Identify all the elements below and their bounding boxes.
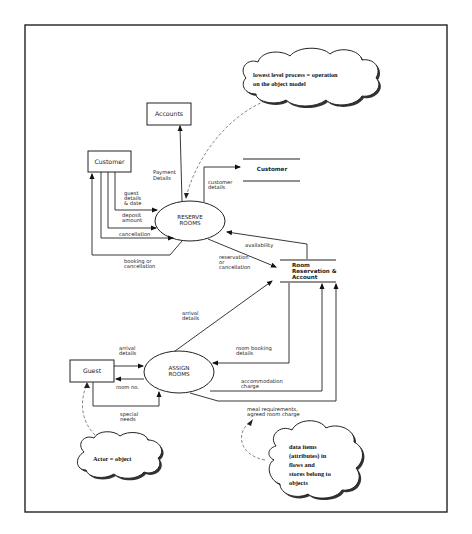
dfd-canvas: lowest level process = operation on the … [0, 0, 472, 534]
data-note-pointer [241, 422, 265, 460]
data-note-line1: data items [289, 443, 317, 450]
flow-label-custdet-2: details [208, 184, 226, 190]
note-cloud-actor: Actor = object [77, 432, 163, 481]
flow-accommodation-charge [210, 284, 322, 391]
data-note-line4: stores belong to [289, 470, 331, 477]
customer-entity-label: Customer [94, 158, 125, 165]
flow-label-room-no: room no. [116, 384, 139, 390]
flow-label-cancellation: cancellation [119, 231, 150, 237]
data-note-line2: (attributes) in [289, 452, 327, 460]
entity-customer[interactable]: Customer [88, 151, 131, 172]
note-cloud-process: lowest level process = operation on the … [243, 48, 381, 108]
process-note-line1: lowest level process = operation [253, 71, 338, 78]
flow-label-availability: availability [245, 242, 273, 249]
customer-store-label: Customer [257, 166, 288, 172]
flow-label-special-2: needs [120, 416, 136, 422]
store-room-reservation-account[interactable]: Room Reservation & Account [280, 260, 337, 282]
data-note-line5: objects [289, 479, 308, 486]
flow-payment-details [180, 126, 182, 201]
flow-label-meal-2: agreed room charge [247, 411, 300, 418]
data-note-line3: flows and [289, 461, 315, 468]
flow-label-arrival-g-2: details [119, 350, 137, 356]
flow-label-booking-2: cancellation [124, 263, 155, 269]
flow-label-resv-3: cancellation [219, 264, 250, 270]
actor-note-text: Actor = object [93, 455, 132, 462]
process-note-line2: on the object model [253, 80, 306, 87]
reserve-label-2: ROOMS [179, 220, 201, 226]
process-assign-rooms[interactable]: ASSIGN ROOMS [144, 351, 214, 393]
entity-accounts[interactable]: Accounts [147, 103, 191, 125]
accounts-label: Accounts [155, 110, 183, 117]
process-reserve-rooms[interactable]: RESERVE ROOMS [155, 201, 225, 241]
room-store-label-3: Account [292, 274, 318, 280]
flow-label-accom-2: charge [241, 383, 259, 390]
flow-label-payment-2: Details [153, 175, 171, 181]
entity-guest[interactable]: Guest [70, 360, 114, 382]
note-cloud-data-items: data items (attributes) in flows and sto… [269, 421, 365, 500]
guest-label: Guest [83, 367, 102, 374]
flow-label-deposit-2: amount [122, 217, 142, 223]
store-customer[interactable]: Customer [243, 159, 300, 181]
flow-label-arrival-s-2: details [182, 315, 200, 321]
assign-label-2: ROOMS [168, 371, 190, 377]
flow-label-guest-3: & date [124, 200, 141, 206]
flow-label-rbd-2: details [236, 350, 254, 356]
